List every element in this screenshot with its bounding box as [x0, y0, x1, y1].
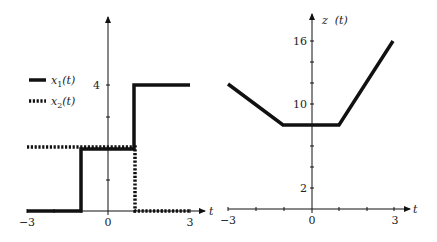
legend-item-x1: x1(t) [29, 74, 75, 89]
right-chart: −3 0 3 16 10 2 t z (t) [220, 14, 418, 227]
right-y-tick-2: 2 [300, 182, 307, 195]
left-x-tick-neg3: −3 [19, 216, 35, 229]
right-x-tick-3: 3 [392, 214, 399, 227]
left-x-tick-3: 3 [187, 216, 194, 229]
legend-item-x2: x2(t) [29, 95, 75, 110]
right-y-tick-10: 10 [293, 98, 307, 111]
legend-x1-arg: (t) [62, 74, 75, 87]
right-y-axis-label: z (t) [321, 14, 348, 27]
left-x-axis-label: t [209, 205, 214, 218]
svg-text:x2(t): x2(t) [51, 95, 75, 110]
right-x-axis-label: t [413, 203, 418, 216]
figure: −3 0 3 4 t x1(t) x2(t) [0, 0, 437, 242]
right-y-tick-16: 16 [293, 35, 307, 48]
left-chart: −3 0 3 4 t x1(t) x2(t) [19, 17, 214, 229]
svg-text:x1(t): x1(t) [51, 74, 75, 89]
legend-x2-arg: (t) [62, 95, 75, 108]
right-x-tick-0: 0 [309, 214, 316, 227]
legend: x1(t) x2(t) [29, 74, 75, 110]
left-x-tick-0: 0 [105, 216, 112, 229]
right-x-tick-neg3: −3 [220, 214, 236, 227]
left-y-tick-4: 4 [93, 79, 100, 92]
